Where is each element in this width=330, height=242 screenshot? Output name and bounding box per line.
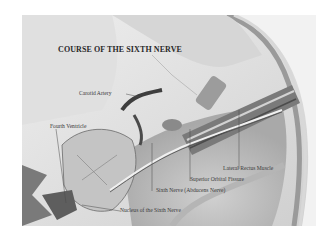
figure-title: COURSE OF THE SIXTH NERVE xyxy=(58,45,182,54)
label-carotid-artery: Carotid Artery xyxy=(79,91,111,97)
label-sixth-nerve: Sixth Nerve (Abducens Nerve) xyxy=(156,188,225,194)
label-lateral-rectus-muscle: Lateral Rectus Muscle xyxy=(223,166,273,172)
label-fourth-ventricle: Fourth Ventricle xyxy=(50,124,86,130)
label-nucleus-sixth-nerve: Nucleus of the Sixth Nerve xyxy=(120,208,181,214)
label-superior-orbital-fissure: Superior Orbital Fissure xyxy=(190,177,244,183)
anatomical-illustration: COURSE OF THE SIXTH NERVE Carotid Artery… xyxy=(22,15,316,226)
